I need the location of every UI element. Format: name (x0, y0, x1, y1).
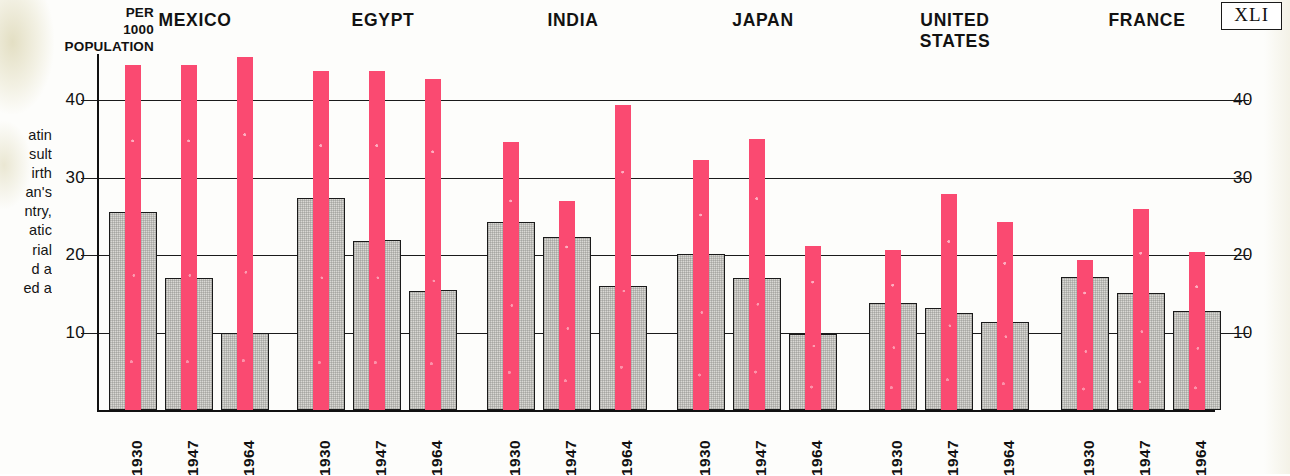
bar-gray-egypt-1930-left (297, 198, 314, 410)
bar-pink-japan-1964 (805, 246, 821, 410)
country-title-united-states: UNITEDSTATES (867, 10, 1043, 52)
bar-gray-japan-1947-left (733, 278, 750, 410)
bar-pink-france-1930 (1077, 260, 1093, 410)
country-group-japan: JAPAN193019471964 (675, 0, 851, 474)
country-title-line: STATES (867, 31, 1043, 52)
y-axis-tick-left-30: 30 (25, 168, 85, 188)
x-axis-year-label-india-1964: 1964 (618, 440, 636, 476)
x-axis-year-label-united-states-1947: 1947 (944, 440, 962, 476)
y-tick-mark-left-10 (81, 333, 97, 334)
y-axis-tick-left-40: 40 (25, 90, 85, 110)
bar-pink-france-1964 (1189, 252, 1205, 410)
bar-gray-japan-1964-left (789, 334, 806, 410)
bar-pink-mexico-1930 (125, 65, 141, 410)
bar-gray-mexico-1930-left (109, 212, 126, 410)
y-axis-line (97, 54, 99, 410)
bar-gray-japan-1947-right (764, 278, 781, 410)
country-title-france: FRANCE (1059, 10, 1235, 31)
bar-gray-france-1947-right (1148, 293, 1165, 410)
bar-gray-india-1930-right (518, 222, 535, 410)
bar-gray-france-1947-left (1117, 293, 1134, 410)
bar-gray-mexico-1964-left (221, 333, 238, 411)
bar-gray-united-states-1964-left (981, 322, 998, 410)
y-axis-tick-left-20: 20 (25, 245, 85, 265)
bar-pink-france-1947 (1133, 209, 1149, 410)
bar-pink-india-1947 (559, 201, 575, 410)
bar-gray-united-states-1930-left (869, 303, 886, 410)
bar-gray-france-1964-right (1204, 311, 1221, 410)
country-group-mexico: MEXICO193019471964 (107, 0, 283, 474)
bar-pink-united-states-1947 (941, 194, 957, 410)
bar-gray-india-1947-left (543, 237, 560, 410)
x-axis-year-label-india-1930: 1930 (506, 440, 524, 476)
bar-pink-japan-1930 (693, 160, 709, 410)
x-axis-year-label-egypt-1930: 1930 (316, 440, 334, 476)
y-axis-tick-left-10: 10 (25, 323, 85, 343)
bar-gray-united-states-1964-right (1012, 322, 1029, 410)
bar-gray-mexico-1964-right (252, 333, 269, 411)
bar-gray-india-1947-right (574, 237, 591, 410)
article-body-line: ed a (0, 279, 52, 298)
x-axis-year-label-japan-1964: 1964 (808, 440, 826, 476)
x-axis-year-label-egypt-1947: 1947 (372, 440, 390, 476)
country-group-india: INDIA193019471964 (485, 0, 661, 474)
bar-gray-egypt-1964-left (409, 291, 426, 410)
bar-gray-france-1964-left (1173, 311, 1190, 410)
bar-pink-japan-1947 (749, 139, 765, 410)
bar-pink-egypt-1930 (313, 71, 329, 410)
country-group-france: FRANCE193019471964 (1059, 0, 1235, 474)
country-title-line: FRANCE (1059, 10, 1235, 31)
y-tick-mark-left-40 (81, 100, 97, 101)
country-title-india: INDIA (485, 10, 661, 31)
bar-pink-mexico-1964 (237, 57, 253, 410)
x-axis-year-label-japan-1947: 1947 (752, 440, 770, 476)
bar-gray-japan-1930-left (677, 254, 694, 410)
x-axis-year-label-mexico-1947: 1947 (184, 440, 202, 476)
bar-pink-united-states-1930 (885, 250, 901, 410)
bar-chart-plot-area: 4030201040302010MEXICO193019471964EGYPT1… (97, 0, 1225, 474)
bar-gray-japan-1964-right (820, 334, 837, 410)
bar-pink-india-1964 (615, 105, 631, 410)
article-body-line: sult (0, 145, 52, 164)
x-axis-year-label-mexico-1964: 1964 (240, 440, 258, 476)
bar-pink-india-1930 (503, 142, 519, 410)
article-body-line: ntry, (0, 202, 52, 221)
y-tick-mark-left-30 (81, 178, 97, 179)
bar-pink-mexico-1947 (181, 65, 197, 410)
country-title-line: EGYPT (295, 10, 471, 31)
x-axis-year-label-japan-1930: 1930 (696, 440, 714, 476)
country-title-line: MEXICO (107, 10, 283, 31)
bar-gray-egypt-1964-right (440, 290, 457, 410)
article-body-line: atic (0, 221, 52, 240)
bar-pink-egypt-1947 (369, 71, 385, 410)
x-axis-year-label-france-1964: 1964 (1192, 440, 1210, 476)
bar-pink-egypt-1964 (425, 79, 441, 410)
x-axis-year-label-united-states-1964: 1964 (1000, 440, 1018, 476)
country-title-line: INDIA (485, 10, 661, 31)
bar-gray-egypt-1930-right (328, 198, 345, 410)
x-axis-year-label-france-1947: 1947 (1136, 440, 1154, 476)
country-title-line: UNITED (867, 10, 1043, 31)
bar-gray-united-states-1947-left (925, 308, 942, 410)
x-axis-year-label-egypt-1964: 1964 (428, 440, 446, 476)
country-title-egypt: EGYPT (295, 10, 471, 31)
y-tick-mark-left-20 (81, 255, 97, 256)
bar-gray-india-1964-left (599, 286, 616, 410)
country-group-united-states: UNITEDSTATES193019471964 (867, 0, 1043, 474)
paper-edge-shadow (1264, 0, 1290, 474)
country-title-mexico: MEXICO (107, 10, 283, 31)
bar-gray-india-1930-left (487, 222, 504, 410)
country-title-japan: JAPAN (675, 10, 851, 31)
bar-gray-india-1964-right (630, 286, 647, 410)
bar-gray-egypt-1947-left (353, 241, 370, 410)
bar-gray-france-1930-right (1092, 277, 1109, 410)
article-body-text-fragment: atinsultirthan'sntry,aticriald aed a (0, 126, 52, 298)
x-axis-year-label-united-states-1930: 1930 (888, 440, 906, 476)
bar-gray-egypt-1947-right (384, 240, 401, 411)
article-body-line: atin (0, 126, 52, 145)
bar-gray-france-1930-left (1061, 277, 1078, 410)
x-axis-year-label-france-1930: 1930 (1080, 440, 1098, 476)
bar-gray-japan-1930-right (708, 254, 725, 410)
country-title-line: JAPAN (675, 10, 851, 31)
bar-gray-mexico-1947-right (196, 278, 213, 410)
